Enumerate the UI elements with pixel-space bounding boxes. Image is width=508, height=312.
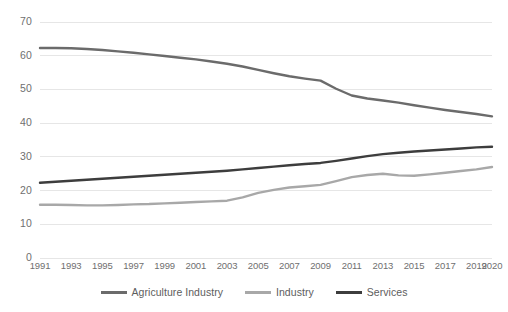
chart-legend: Agriculture IndustryIndustryServices — [0, 286, 508, 298]
y-axis-tick-label: 30 — [8, 150, 32, 162]
series-line-services — [40, 147, 492, 183]
x-axis-tick-label: 1999 — [148, 260, 182, 271]
legend-item[interactable]: Agriculture Industry — [101, 286, 223, 298]
x-axis-tick-label: 2005 — [241, 260, 275, 271]
x-axis-tick-label: 2011 — [335, 260, 369, 271]
x-axis-tick-label: 2001 — [179, 260, 213, 271]
legend-line-swatch — [245, 291, 271, 294]
y-axis-tick-label: 40 — [8, 116, 32, 128]
x-axis-tick-label: 2007 — [272, 260, 306, 271]
x-axis-tick-label: 1997 — [117, 260, 151, 271]
legend-item-label: Industry — [276, 286, 314, 298]
gridlines-group — [40, 22, 492, 258]
line-chart: 010203040506070 199119931995199719992001… — [0, 0, 508, 312]
series-line-agriculture-industry — [40, 48, 492, 116]
y-axis-tick-label: 70 — [8, 15, 32, 27]
legend-line-swatch — [101, 291, 127, 294]
x-axis-tick-label: 2015 — [397, 260, 431, 271]
x-axis-tick-label: 2003 — [210, 260, 244, 271]
x-axis-tick-label: 1995 — [85, 260, 119, 271]
series-line-industry — [40, 167, 492, 205]
legend-item[interactable]: Industry — [245, 286, 314, 298]
x-axis-tick-label: 2013 — [366, 260, 400, 271]
legend-item-label: Agriculture Industry — [132, 286, 223, 298]
x-axis-tick-label: 1993 — [54, 260, 88, 271]
series-lines-group — [40, 48, 492, 205]
x-axis-tick-label: 2020 — [475, 260, 508, 271]
y-axis-tick-label: 20 — [8, 184, 32, 196]
legend-item[interactable]: Services — [336, 286, 408, 298]
y-axis-tick-label: 50 — [8, 82, 32, 94]
y-axis-tick-label: 60 — [8, 49, 32, 61]
x-axis-tick-label: 1991 — [23, 260, 57, 271]
legend-line-swatch — [336, 291, 362, 294]
legend-item-label: Services — [367, 286, 408, 298]
x-axis-tick-label: 2017 — [428, 260, 462, 271]
y-axis-tick-label: 10 — [8, 217, 32, 229]
x-axis-tick-label: 2009 — [304, 260, 338, 271]
